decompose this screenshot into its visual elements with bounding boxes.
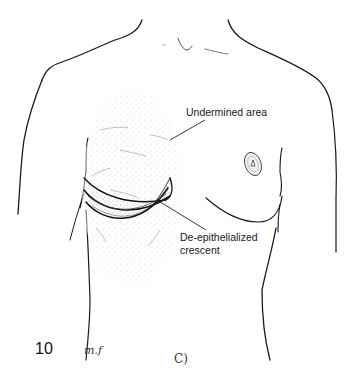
label-crescent-line1: De-epithelialized <box>180 231 258 243</box>
areola <box>241 150 264 178</box>
bottom-mark: C) <box>174 352 188 366</box>
artist-signature: m.f <box>84 344 102 357</box>
label-crescent-line2: crescent <box>180 244 220 256</box>
figure-number: 10 <box>35 340 53 358</box>
illustration-canvas: Undermined area De-epithelialized cresce… <box>0 0 360 384</box>
torso-drawing <box>0 0 360 384</box>
label-undermined-area: Undermined area <box>186 106 267 118</box>
